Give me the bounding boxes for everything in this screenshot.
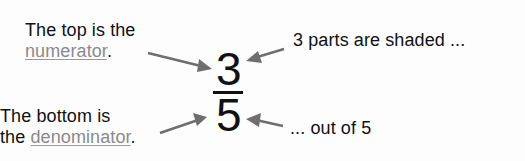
arrow-to-numerator-icon (148, 53, 212, 72)
arrow-to-denominator-icon (160, 113, 207, 133)
arrow-from-shaded-caption-icon (246, 49, 284, 63)
pointer-arrows (0, 0, 525, 161)
arrow-from-total-caption-icon (246, 113, 283, 127)
